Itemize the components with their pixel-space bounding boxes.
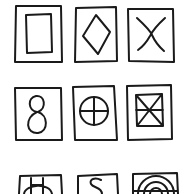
- cell-concentric-arcs: [133, 173, 178, 194]
- concentric-arcs-icon: [134, 176, 177, 194]
- cell-circle-h: [19, 175, 62, 194]
- inner-rectangle-icon: [26, 14, 52, 53]
- diamond-icon: [83, 15, 110, 54]
- boxed-x-icon: [136, 94, 163, 126]
- frame: [127, 85, 172, 140]
- symbol-grid-figure: Hand-drawn grid of 9 square frames, each…: [0, 0, 187, 194]
- circle-h-icon: [24, 178, 52, 194]
- frame: [78, 174, 118, 194]
- cell-circle-cross: [73, 86, 117, 140]
- cell-diamond: [75, 7, 117, 62]
- s-curve-icon: [91, 179, 102, 194]
- cell-boxed-x: [127, 85, 172, 140]
- cell-s: [78, 174, 118, 194]
- cell-x: [128, 9, 174, 62]
- cell-inner-rectangle: [15, 6, 62, 62]
- x-cross-icon: [137, 18, 165, 51]
- cell-figure-eight: [15, 88, 62, 140]
- figure-eight-icon: [28, 96, 46, 133]
